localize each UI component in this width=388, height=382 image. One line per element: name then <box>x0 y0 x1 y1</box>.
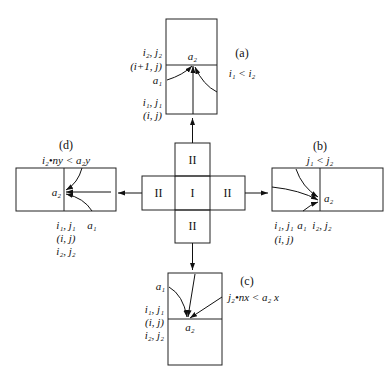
panel-c-a1: a₁ <box>156 280 166 292</box>
panel-c: a₁ a₂ i₁, j₁ (i, j) i₂, j₂ (c) j₂•nx < a… <box>145 273 279 365</box>
panel-d: a₂ (d) i₂•ny < a₂y i₁, j₁ a₁ (i, j) i₂, … <box>16 138 116 257</box>
panel-a-a1: a₁ <box>153 74 163 86</box>
panel-c-tag: (c) <box>240 274 253 288</box>
panel-b-i2j2: i₂, j₂ <box>312 219 331 231</box>
panel-b-arrow-left-curve <box>272 187 318 200</box>
panel-d-i1j1: i₁, j₁ <box>56 219 75 231</box>
panel-c-arrow-left-curve <box>169 287 187 317</box>
panel-d-i2j2: i₂, j₂ <box>56 245 75 257</box>
panel-b-condition: j₁ < j₂ <box>305 154 334 166</box>
panel-d-ij: (i, j) <box>57 232 76 245</box>
panel-b-arrow-top-curve <box>296 169 318 197</box>
panel-a: a₂ i₂, j₂ (i+1, j) a₁ i₁, j₁ (i, j) (a) … <box>130 19 255 122</box>
panel-a-arrow-left-curve <box>167 66 192 80</box>
panel-c-i1j1: i₁, j₁ <box>145 303 164 315</box>
diagram-canvas: II II I II II a₂ i₂, j₂ (i+1, j) a₁ i₁, … <box>0 0 388 382</box>
panel-a-ij: (i, j) <box>143 109 162 122</box>
cell-bottom-label: II <box>189 219 197 233</box>
panel-d-tag: (d) <box>59 138 73 152</box>
panel-c-a2: a₂ <box>185 321 195 333</box>
panel-b: a₂ (b) j₁ < j₂ i₁, j₁ a₁ i₂, j₂ (i, j) <box>272 139 383 246</box>
panel-b-ij: (i, j) <box>275 233 294 246</box>
panel-a-i1j: (i+1, j) <box>130 60 162 73</box>
cell-top-label: II <box>189 153 197 167</box>
panel-b-tag: (b) <box>313 139 327 153</box>
panel-b-i1j1: i₁, j₁ <box>274 219 293 231</box>
panel-d-arrow-top-curve <box>66 168 82 190</box>
panel-a-i2j2: i₂, j₂ <box>143 46 162 58</box>
cell-left-label: II <box>155 186 163 200</box>
cell-center-label: I <box>191 186 195 200</box>
panel-a-arrow-right-curve <box>195 67 217 92</box>
cell-right-label: II <box>224 186 232 200</box>
panel-b-a2: a₂ <box>324 192 334 204</box>
panel-a-a2: a₂ <box>188 50 198 62</box>
panel-a-condition: i₁ < i₂ <box>229 67 256 79</box>
panel-c-condition: j₂•nx < a₂ x <box>226 291 279 303</box>
panel-c-i2j2: i₂, j₂ <box>145 329 164 341</box>
panel-c-arrow-right <box>190 297 222 318</box>
panel-b-arrow-bottom-curve <box>303 202 318 211</box>
panel-a-tag: (a) <box>235 46 248 60</box>
panel-d-condition: i₂•ny < a₂y <box>42 154 90 166</box>
panel-d-arrow-bottom-curve <box>66 194 92 211</box>
panel-c-arrow-straight <box>188 274 195 317</box>
panel-b-a1: a₁ <box>297 219 307 231</box>
panel-a-i1j1: i₁, j₁ <box>143 96 162 108</box>
panel-d-a2: a₂ <box>52 186 62 198</box>
panel-c-ij: (i, j) <box>145 316 164 329</box>
panel-d-a1: a₁ <box>87 219 97 231</box>
